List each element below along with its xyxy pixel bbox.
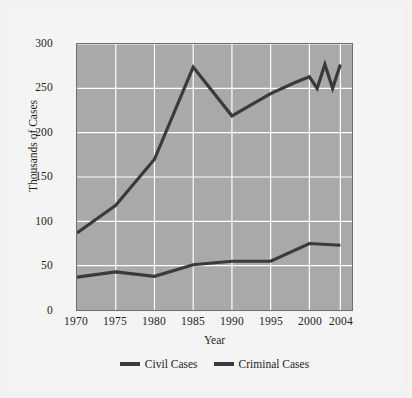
series-lines	[77, 44, 352, 310]
legend-label-criminal-cases: Criminal Cases	[239, 358, 310, 370]
x-tick-label-1970: 1970	[54, 316, 98, 328]
plot-area	[76, 43, 353, 311]
y-axis-title: Thousands of Cases	[27, 66, 39, 226]
figure-canvas: 300 250 200 150 100 50 0 1970 1975 1980 …	[8, 8, 404, 390]
series-line-criminal-cases	[77, 244, 340, 278]
legend-line-icon	[120, 362, 140, 366]
legend-label-civil-cases: Civil Cases	[145, 358, 198, 370]
chart-figure: 300 250 200 150 100 50 0 1970 1975 1980 …	[0, 0, 412, 398]
legend-line-icon	[214, 362, 234, 366]
x-axis-title: Year	[76, 334, 353, 346]
x-tick-label-1990: 1990	[210, 316, 254, 328]
x-tick-label-1985: 1985	[171, 316, 215, 328]
chart-legend: Civil Cases Criminal Cases	[76, 358, 353, 370]
x-tick-label-1995: 1995	[249, 316, 293, 328]
series-line-civil-cases	[77, 64, 340, 232]
x-tick-label-1980: 1980	[132, 316, 176, 328]
legend-item-civil-cases: Civil Cases	[120, 358, 198, 370]
y-tick-label-0: 0	[13, 305, 53, 317]
x-tick-label-1975: 1975	[93, 316, 137, 328]
legend-item-criminal-cases: Criminal Cases	[214, 358, 310, 370]
y-tick-label-300: 300	[13, 38, 53, 50]
y-tick-label-50: 50	[13, 260, 53, 272]
x-tick-label-2004: 2004	[319, 316, 363, 328]
